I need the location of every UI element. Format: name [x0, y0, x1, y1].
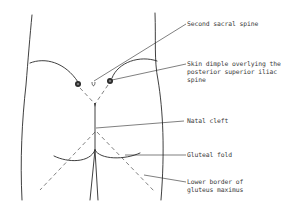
leader-dimple	[112, 64, 186, 80]
sacral-spine-marker	[92, 82, 95, 86]
leader-sacral	[94, 24, 186, 81]
dashed-left-dimple	[80, 88, 95, 104]
dashed-lower-border-left	[40, 132, 95, 190]
label-skin-dimple-1: Skin dimple overlying the	[187, 60, 281, 68]
left-inner-thigh	[90, 150, 95, 200]
leader-lower-border	[144, 175, 186, 182]
leader-cleft	[96, 121, 184, 128]
label-skin-dimple-2: posterior superior iliac	[187, 68, 277, 76]
label-natal-cleft: Natal cleft	[187, 117, 228, 125]
label-gluteal-fold: Gluteal fold	[187, 151, 232, 159]
right-inner-thigh	[95, 150, 98, 200]
right-gluteal-fold	[95, 150, 140, 158]
dashed-right-dimple	[95, 85, 108, 104]
left-gluteal-fold	[54, 150, 95, 161]
dashed-lower-border-right	[97, 132, 155, 192]
right-body-outline	[155, 13, 163, 200]
anatomy-diagram	[0, 0, 301, 211]
left-iliac-curve	[30, 61, 78, 82]
label-second-sacral-spine: Second sacral spine	[187, 20, 258, 28]
label-skin-dimple-3: spine	[187, 76, 206, 84]
left-body-outline	[21, 15, 32, 200]
label-lower-border-2: gluteus maximus	[187, 186, 243, 194]
label-lower-border-1: Lower border of	[187, 178, 243, 186]
